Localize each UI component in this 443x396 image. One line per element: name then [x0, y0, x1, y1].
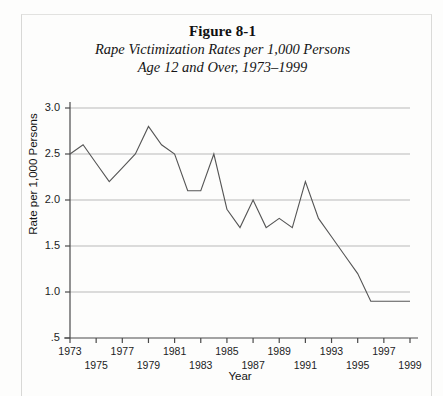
- x-axis-title: Year: [170, 370, 310, 382]
- y-tick-label: .5: [26, 332, 60, 343]
- x-tick-label: 1999: [390, 360, 430, 371]
- x-tick-label: 1975: [76, 360, 116, 371]
- y-tick-label: 1.0: [26, 286, 60, 297]
- line-chart: 3.02.52.01.51.0.519731975197719791981198…: [0, 0, 443, 396]
- x-tick-label: 1985: [207, 346, 247, 357]
- figure-container: Figure 8-1 Rape Victimization Rates per …: [0, 0, 443, 396]
- x-tick-label: 1979: [128, 360, 168, 371]
- y-axis-title: Rate per 1,000 Persons: [27, 94, 39, 254]
- plot-svg: [0, 0, 443, 396]
- x-tick-label: 1997: [364, 346, 404, 357]
- x-tick-label: 1981: [155, 346, 195, 357]
- data-series-line: [70, 126, 410, 301]
- x-tick-label: 1989: [259, 346, 299, 357]
- x-tick-label: 1973: [50, 346, 90, 357]
- x-tick-label: 1995: [338, 360, 378, 371]
- x-tick-label: 1993: [312, 346, 352, 357]
- x-tick-label: 1977: [102, 346, 142, 357]
